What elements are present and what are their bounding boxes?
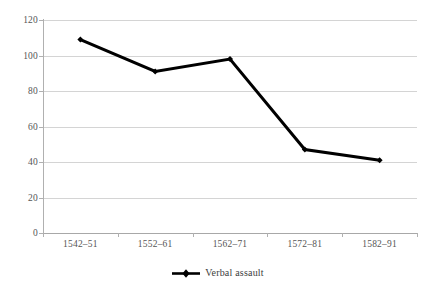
y-axis-line xyxy=(43,19,44,234)
x-axis-tick-mark xyxy=(43,233,44,237)
y-axis-tick-label: 20 xyxy=(4,193,38,203)
y-axis-labels: 020406080100120 xyxy=(0,0,38,292)
y-axis-tick-mark xyxy=(39,20,43,21)
x-axis-tick-label: 1542–51 xyxy=(63,238,98,250)
x-axis-tick-mark xyxy=(267,233,268,237)
gridline xyxy=(43,20,417,21)
legend-entry-verbal-assault: Verbal assault xyxy=(171,267,264,279)
chart-legend: Verbal assault xyxy=(0,263,435,283)
gridline xyxy=(43,127,417,128)
x-axis-tick-label: 1562–71 xyxy=(213,238,248,250)
y-axis-tick-mark xyxy=(39,127,43,128)
x-axis-line xyxy=(43,233,417,234)
y-axis-tick-label: 40 xyxy=(4,157,38,167)
gridline xyxy=(43,198,417,199)
x-axis-labels: 1542–511552–611562–711572–811582–91 xyxy=(43,238,417,254)
y-axis-tick-mark xyxy=(39,56,43,57)
x-axis-tick-mark xyxy=(342,233,343,237)
x-axis-tick-label: 1552–61 xyxy=(138,238,173,250)
y-axis-tick-mark xyxy=(39,162,43,163)
legend-label-verbal-assault: Verbal assault xyxy=(205,267,264,279)
gridline xyxy=(43,56,417,57)
x-axis-tick-mark xyxy=(417,233,418,237)
y-axis-tick-label: 80 xyxy=(4,86,38,96)
line-chart: 020406080100120 1542–511552–611562–71157… xyxy=(0,0,435,292)
y-axis-tick-label: 0 xyxy=(4,228,38,238)
y-axis-tick-label: 100 xyxy=(4,51,38,61)
x-axis-tick-label: 1572–81 xyxy=(287,238,322,250)
y-axis-tick-label: 60 xyxy=(4,122,38,132)
plot-area xyxy=(43,20,417,233)
y-axis-tick-label: 120 xyxy=(4,15,38,25)
gridline xyxy=(43,91,417,92)
x-axis-tick-mark xyxy=(118,233,119,237)
x-axis-tick-label: 1582–91 xyxy=(362,238,397,250)
legend-line-marker-icon xyxy=(171,268,201,279)
y-axis-tick-mark xyxy=(39,91,43,92)
x-axis-tick-mark xyxy=(193,233,194,237)
gridline xyxy=(43,162,417,163)
y-axis-tick-mark xyxy=(39,198,43,199)
